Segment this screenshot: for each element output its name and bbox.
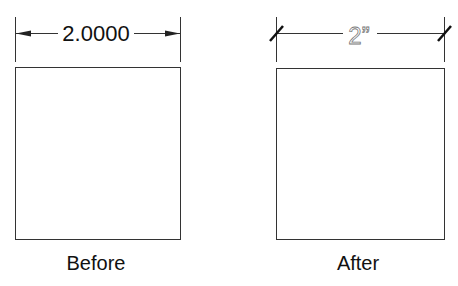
before-square: [16, 68, 181, 240]
after-dimension-text: 2”: [348, 22, 369, 49]
before-dimension: [16, 17, 181, 240]
dimension-style-diagram: 2.0000 2”: [0, 0, 458, 286]
arrow-right-icon: [165, 31, 180, 37]
after-dimension: [270, 17, 451, 240]
arrow-left-icon: [16, 31, 31, 37]
after-caption: After: [298, 252, 418, 275]
after-square: [277, 69, 445, 240]
before-dimension-text: 2.0000: [62, 21, 129, 46]
before-caption: Before: [36, 252, 156, 275]
